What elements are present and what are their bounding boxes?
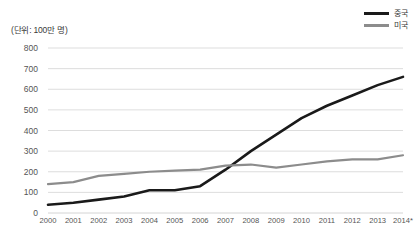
chart-container: (단위: 100만 명) 중국 미국 010020030040050060070… xyxy=(0,0,415,240)
y-axis-tick: 700 xyxy=(24,64,38,74)
series-lines xyxy=(48,77,403,205)
y-axis-tick: 400 xyxy=(24,126,38,136)
legend-item-usa[interactable]: 미국 xyxy=(364,21,408,30)
x-axis-tick: 2005 xyxy=(166,216,183,225)
legend-swatch-china-icon xyxy=(364,12,389,15)
x-axis-tick: 2004 xyxy=(141,216,158,225)
y-axis-labels: 0100200300400500600700800 xyxy=(0,48,44,213)
x-axis-labels: (년) 200020012002200320042005200620072008… xyxy=(48,216,403,230)
y-axis-tick: 100 xyxy=(24,187,38,197)
legend-label-china: 중국 xyxy=(394,9,408,18)
y-axis-tick: 500 xyxy=(24,105,38,115)
legend-swatch-usa-icon xyxy=(364,24,389,27)
chart-legend: 중국 미국 xyxy=(364,9,408,30)
x-axis-tick: 2009 xyxy=(268,216,285,225)
legend-label-usa: 미국 xyxy=(394,21,408,30)
x-axis-tick: 2003 xyxy=(116,216,133,225)
x-axis-tick: 2012 xyxy=(344,216,361,225)
x-axis-tick: 2013 xyxy=(369,216,386,225)
gridlines xyxy=(48,48,403,213)
x-axis-tick: 2007 xyxy=(217,216,234,225)
x-axis-tick: 2002 xyxy=(90,216,107,225)
x-axis-tick: 2001 xyxy=(65,216,82,225)
x-axis-tick: 2008 xyxy=(242,216,259,225)
y-axis-tick: 200 xyxy=(24,167,38,177)
x-axis-tick: 2011 xyxy=(319,216,335,225)
chart-unit-note: (단위: 100만 명) xyxy=(11,23,68,35)
y-axis-tick: 300 xyxy=(24,146,38,156)
x-axis-tick: 2000 xyxy=(40,216,57,225)
x-axis-tick: 2010 xyxy=(293,216,310,225)
x-axis-tick: 2014* xyxy=(393,216,413,225)
legend-item-china[interactable]: 중국 xyxy=(364,9,408,18)
y-axis-tick: 800 xyxy=(24,43,38,53)
x-axis-tick: 2006 xyxy=(192,216,209,225)
plot-svg xyxy=(48,48,403,213)
y-axis-tick: 600 xyxy=(24,84,38,94)
series-line-china xyxy=(48,77,403,205)
y-axis-tick: 0 xyxy=(33,208,38,218)
plot-area xyxy=(48,48,403,213)
